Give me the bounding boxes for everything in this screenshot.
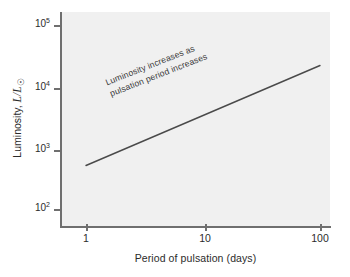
sun-symbol-icon: ☉	[16, 78, 26, 86]
data-line-layer	[0, 0, 350, 277]
y-axis-title: Luminosity, L/L☉	[11, 18, 23, 218]
y-axis-title-prefix: Luminosity,	[11, 102, 23, 157]
x-axis-title: Period of pulsation (days)	[61, 252, 330, 264]
figure-container: 105 104 103 102 1 10 100 Luminosity incr…	[0, 0, 350, 277]
y-axis-title-symbol: L/L	[11, 86, 23, 102]
